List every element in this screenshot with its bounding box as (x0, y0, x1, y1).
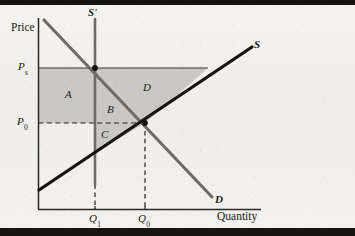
y-tick-p0-subscript: 0 (24, 123, 28, 132)
intersection-point-restricted (92, 65, 98, 71)
x-tick-label-q0: Q0 (138, 213, 150, 227)
y-tick-label-ps: Ps (18, 61, 28, 75)
y-tick-ps-subscript: s (25, 68, 28, 77)
x-tick-q0-base: Q (138, 212, 146, 224)
region-d-label: D (143, 82, 151, 93)
region-a-label: A (65, 89, 72, 100)
x-tick-q1-subscript: 1 (97, 220, 101, 229)
y-tick-p0-base: P (17, 115, 24, 127)
restricted-supply-curve-label: S' (88, 7, 97, 18)
x-tick-q1-base: Q (89, 212, 97, 224)
x-tick-label-q1: Q1 (89, 213, 101, 227)
restricted-supply-prime: ' (94, 7, 97, 18)
region-c-label: C (101, 129, 108, 140)
y-axis-label: Price (11, 22, 35, 34)
supply-demand-plot (0, 0, 355, 236)
figure-page: Price Quantity Ps P0 Q1 Q0 S S' D A B C … (0, 0, 355, 236)
y-tick-label-p0: P0 (17, 116, 27, 130)
region-b-label: B (107, 104, 114, 115)
supply-curve-label: S (254, 39, 260, 50)
x-tick-q0-subscript: 0 (146, 220, 150, 229)
x-axis-label: Quantity (217, 211, 257, 223)
y-tick-ps-base: P (18, 60, 25, 72)
intersection-point-equilibrium (142, 120, 148, 126)
demand-curve-label: D (215, 194, 223, 205)
